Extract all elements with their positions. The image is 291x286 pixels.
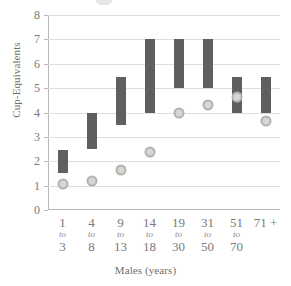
- y-tick-label: 1: [34, 180, 40, 192]
- y-tick-mark: [44, 161, 48, 162]
- x-tick-range-start: 1: [59, 216, 66, 230]
- x-tick-label: 1to3: [59, 216, 66, 254]
- gridline: [48, 161, 280, 162]
- y-tick-label: 3: [34, 131, 40, 143]
- x-tick-label: 71 +to0: [254, 216, 278, 254]
- x-tick-label: 4to8: [88, 216, 95, 254]
- y-tick-label: 6: [34, 58, 40, 70]
- y-tick-mark: [44, 39, 48, 40]
- gridline: [48, 186, 280, 187]
- chart-container: Cup-Equivalents 012345678 1to34to89to131…: [0, 0, 291, 286]
- x-tick-range-start: 51: [230, 216, 243, 230]
- x-tick-label: 14to18: [143, 216, 156, 254]
- y-tick-label: 0: [34, 204, 40, 216]
- range-bar: [58, 150, 68, 173]
- x-tick-range-start: 4: [88, 216, 95, 230]
- x-tick-range-end: 18: [143, 240, 156, 254]
- average-intake-marker: [144, 146, 155, 157]
- plot-area: 012345678 1to34to89to1314to1819to3031to5…: [48, 15, 280, 210]
- average-intake-marker: [57, 179, 68, 190]
- average-intake-marker: [231, 91, 242, 102]
- x-tick-range-end: 30: [172, 240, 185, 254]
- gridline: [48, 15, 280, 16]
- gridline: [48, 113, 280, 114]
- x-tick-range-start: 19: [172, 216, 185, 230]
- x-tick-label: 19to30: [172, 216, 185, 254]
- y-tick-mark: [44, 64, 48, 65]
- y-tick-mark: [44, 15, 48, 16]
- x-tick-range-end: 8: [88, 240, 95, 254]
- average-intake-marker: [115, 164, 126, 175]
- x-tick-label: 31to50: [201, 216, 214, 254]
- y-tick-mark: [44, 186, 48, 187]
- gridline: [48, 39, 280, 40]
- clipped-top-artifact: [96, 0, 112, 5]
- gridline: [48, 64, 280, 65]
- range-bar: [174, 39, 184, 88]
- x-tick-range-end: 70: [230, 240, 243, 254]
- x-tick-range-end: 3: [59, 240, 66, 254]
- x-tick-label: 9to13: [114, 216, 127, 254]
- average-intake-marker: [202, 100, 213, 111]
- y-tick-mark: [44, 88, 48, 89]
- x-tick-label: 51to70: [230, 216, 243, 254]
- average-intake-marker: [86, 175, 97, 186]
- y-tick-label: 2: [34, 155, 40, 167]
- y-tick-label: 8: [34, 9, 40, 21]
- y-tick-mark: [44, 210, 48, 211]
- range-bar: [116, 77, 126, 125]
- y-tick-mark: [44, 137, 48, 138]
- average-intake-marker: [260, 116, 271, 127]
- y-axis-title: Cup-Equivalents: [10, 20, 22, 140]
- x-tick-range-start: 31: [201, 216, 214, 230]
- range-bar: [87, 113, 97, 150]
- y-tick-label: 4: [34, 107, 40, 119]
- gridline: [48, 137, 280, 138]
- x-tick-range-start: 71 +: [254, 216, 278, 230]
- y-tick-label: 5: [34, 82, 40, 94]
- range-bar: [261, 77, 271, 112]
- y-tick-mark: [44, 113, 48, 114]
- gridline: [48, 88, 280, 89]
- x-tick-range-start: 14: [143, 216, 156, 230]
- average-intake-marker: [173, 107, 184, 118]
- x-tick-range-end: 50: [201, 240, 214, 254]
- y-tick-label: 7: [34, 33, 40, 45]
- range-bar: [145, 39, 155, 112]
- x-tick-range-start: 9: [114, 216, 127, 230]
- x-tick-range-end: 13: [114, 240, 127, 254]
- range-bar: [203, 39, 213, 88]
- x-axis-title: Males (years): [0, 264, 291, 276]
